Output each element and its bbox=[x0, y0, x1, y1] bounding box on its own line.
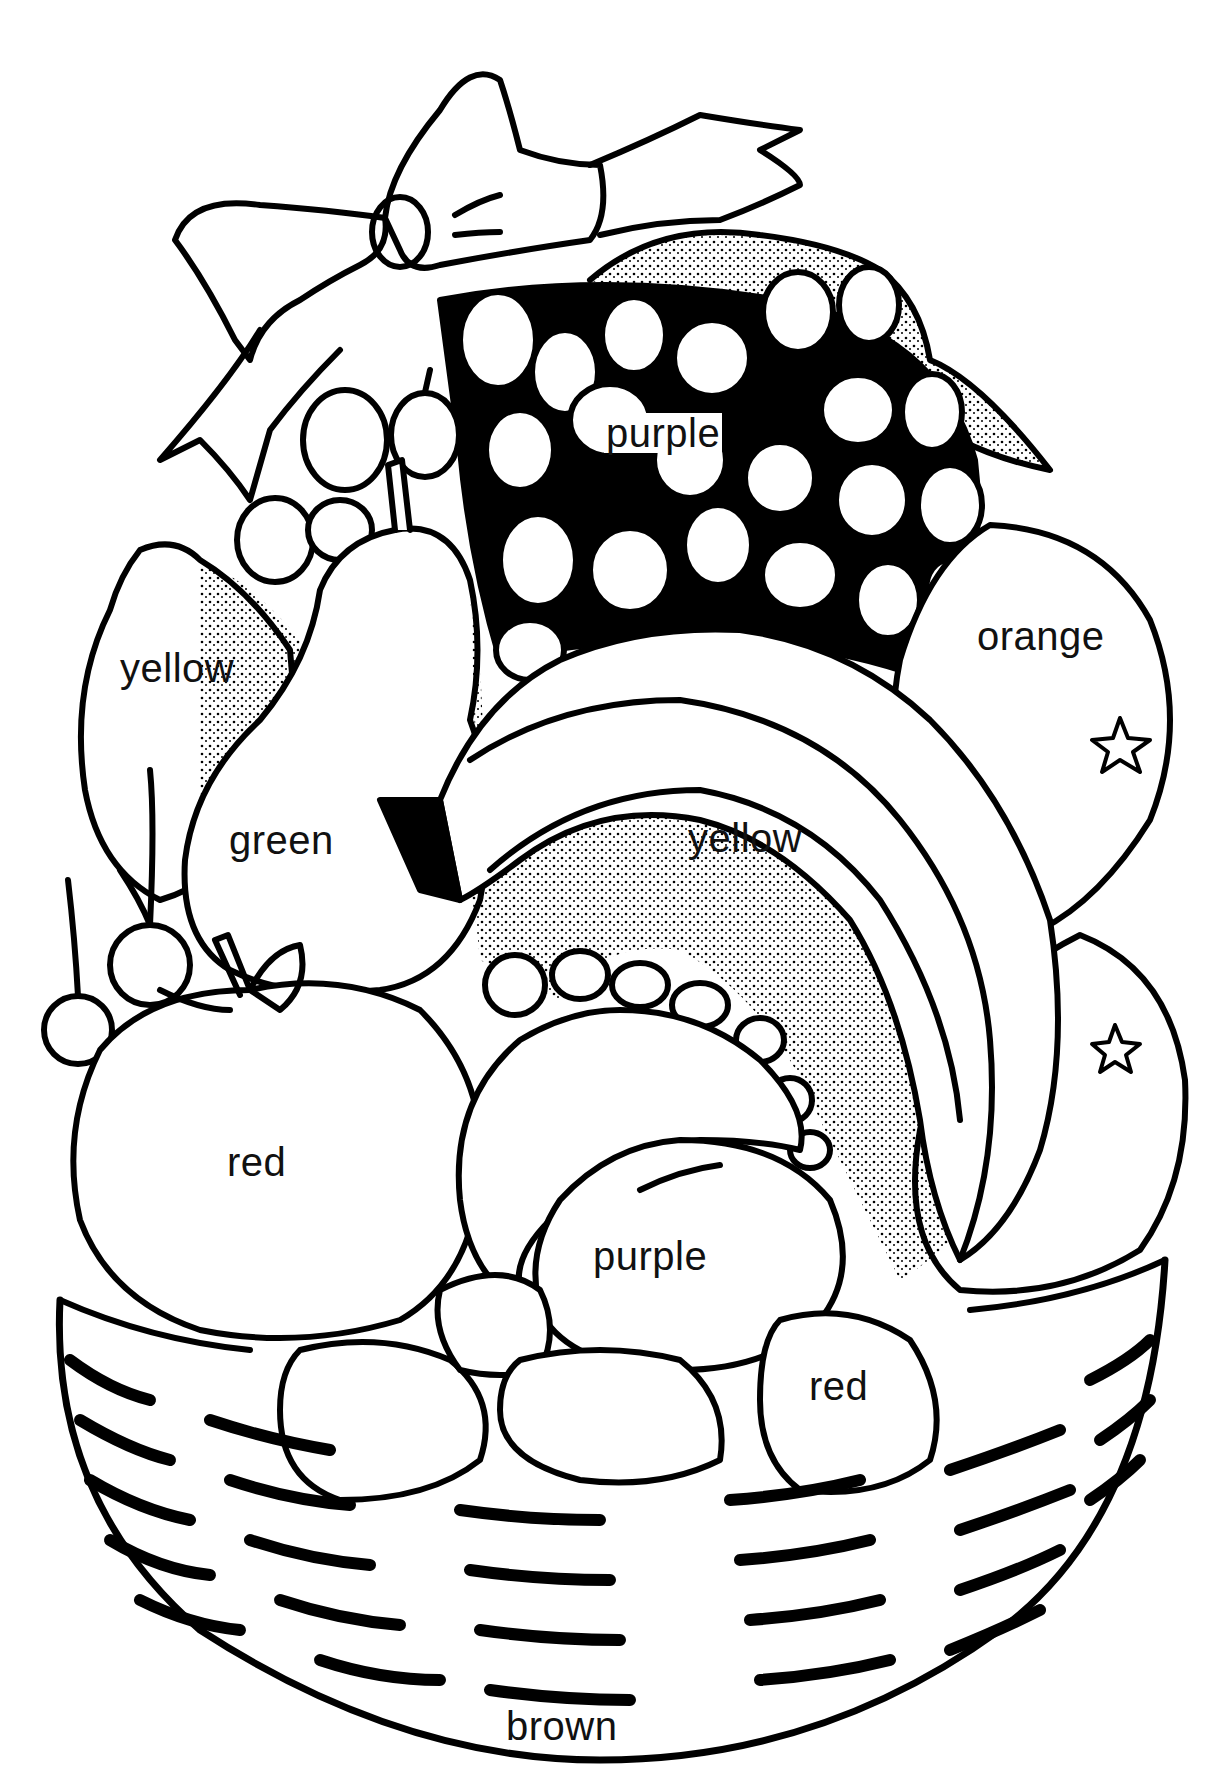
label-basket: brown bbox=[504, 1706, 619, 1746]
label-strawberry: red bbox=[809, 1366, 868, 1406]
label-grapes: purple bbox=[604, 413, 722, 453]
label-orange: orange bbox=[977, 616, 1105, 656]
label-lemon: yellow bbox=[120, 648, 234, 688]
label-plum: purple bbox=[593, 1236, 707, 1276]
label-apple: red bbox=[227, 1142, 286, 1182]
label-pear: green bbox=[229, 820, 334, 860]
label-banana: yellow bbox=[688, 818, 802, 858]
fruit-basket-illustration bbox=[0, 0, 1211, 1786]
